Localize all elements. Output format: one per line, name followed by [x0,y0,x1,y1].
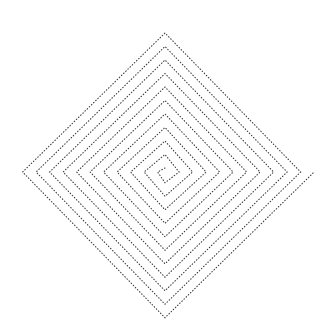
spiral-chart [0,0,321,335]
chart-background [0,0,321,335]
figure-canvas [0,0,321,335]
